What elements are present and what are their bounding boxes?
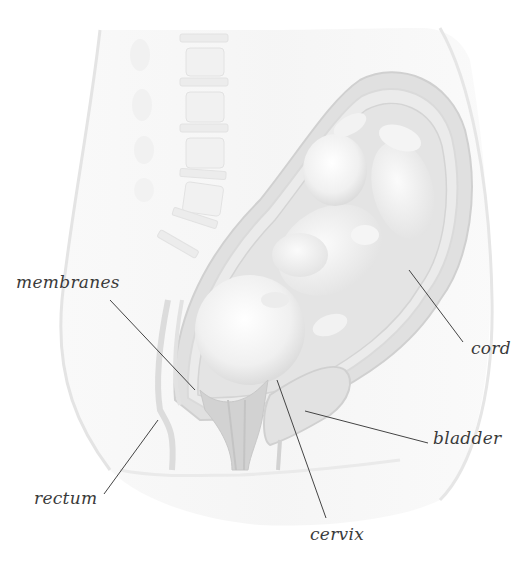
anatomy-diagram: membranes cord bladder rectum cervix — [0, 0, 530, 561]
label-membranes: membranes — [16, 274, 120, 291]
label-rectum: rectum — [34, 490, 97, 507]
label-cord: cord — [471, 340, 511, 357]
label-cervix: cervix — [310, 526, 364, 543]
label-bladder: bladder — [433, 430, 502, 447]
